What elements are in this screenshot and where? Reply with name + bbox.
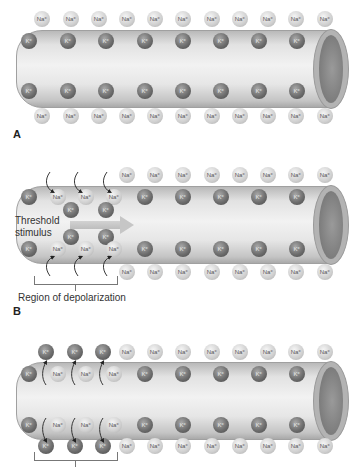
panel-c: K⁺K⁺K⁺Na⁺Na⁺Na⁺Na⁺Na⁺Na⁺Na⁺Na⁺K⁺Na⁺Na⁺Na… — [0, 0, 354, 467]
k-efflux-arrows — [0, 0, 354, 467]
repolarization-bracket — [34, 452, 118, 461]
